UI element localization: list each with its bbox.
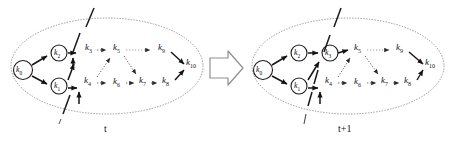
node-label-k9-t: k9 bbox=[158, 43, 165, 54]
edge-k4-k5-t1 bbox=[338, 58, 350, 77]
frontier-cut-line-t1 bbox=[304, 8, 341, 124]
node-label-k5-t: k5 bbox=[113, 43, 120, 54]
node-label-k3-t1: k3 bbox=[325, 49, 331, 59]
node-label-k10-t: k10 bbox=[186, 58, 196, 69]
node-label-k6-t1: k6 bbox=[354, 77, 361, 88]
boundary-ellipse-t1 bbox=[252, 18, 444, 114]
frontier-cut-line-t bbox=[59, 8, 94, 124]
boundary-ellipse-t bbox=[11, 18, 203, 114]
node-label-k7-t1: k7 bbox=[381, 76, 388, 87]
edge-k3-k5-t1 bbox=[338, 50, 348, 53]
node-label-k1-t1: k1 bbox=[294, 82, 300, 92]
node-label-k3-t: k3 bbox=[85, 43, 92, 54]
edge-k5-k7-t bbox=[124, 56, 136, 74]
node-label-k8-t: k8 bbox=[162, 76, 169, 87]
node-label-k2-t1: k2 bbox=[294, 49, 300, 59]
edge-k9-k10-t bbox=[171, 52, 184, 64]
edge-k8-k10-t bbox=[175, 70, 184, 80]
edge-k0-k1-t1 bbox=[272, 76, 287, 84]
node-label-k7-t: k7 bbox=[139, 76, 146, 87]
edge-k4-k5-t bbox=[97, 58, 110, 77]
edge-k5-k7-t1 bbox=[365, 56, 378, 74]
node-label-k9-t1: k9 bbox=[396, 43, 403, 54]
node-label-k0-t: k0 bbox=[16, 66, 22, 76]
panel-t-group bbox=[11, 8, 203, 124]
figure-canvas: k0 k2 k1 k3 k5 k9 k10 k4 k6 k7 k8 k0 k2 … bbox=[0, 0, 454, 142]
edge-k0-k2-t1 bbox=[272, 56, 287, 65]
time-label-t: t bbox=[104, 123, 107, 134]
edge-k9-k10-t1 bbox=[409, 52, 423, 64]
node-label-k6-t: k6 bbox=[113, 77, 120, 88]
node-label-k8-t1: k8 bbox=[404, 76, 411, 87]
edge-k8-k10-t1 bbox=[417, 70, 423, 80]
panel-t1-group bbox=[252, 8, 444, 124]
node-label-k2-t: k2 bbox=[54, 49, 60, 59]
node-label-k1-t: k1 bbox=[54, 82, 60, 92]
node-label-k4-t1: k4 bbox=[325, 76, 332, 87]
block-arrow-right-icon bbox=[210, 51, 243, 85]
time-label-t1: t+1 bbox=[338, 123, 351, 134]
node-label-k10-t1: k10 bbox=[425, 58, 435, 69]
diagram-svg bbox=[0, 0, 454, 142]
edge-k0-k1-t bbox=[32, 76, 47, 84]
node-label-k5-t1: k5 bbox=[354, 43, 361, 54]
node-label-k4-t: k4 bbox=[84, 76, 91, 87]
edge-k0-k2-t bbox=[32, 56, 47, 65]
node-label-k0-t1: k0 bbox=[256, 66, 262, 76]
